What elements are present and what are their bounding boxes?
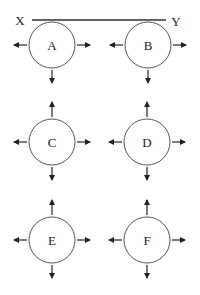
circle-label-c: C (48, 135, 57, 150)
node-c: C (14, 102, 90, 180)
circle-label-e: E (48, 233, 56, 248)
force-diagram: X Y ABCDEF (0, 0, 200, 295)
label-x: X (15, 13, 25, 28)
node-d: D (109, 102, 185, 180)
circle-label-a: A (47, 38, 57, 53)
node-a: A (14, 22, 90, 83)
node-b: B (110, 22, 186, 83)
circle-label-b: B (144, 38, 153, 53)
node-e: E (14, 200, 90, 278)
label-y: Y (171, 14, 181, 29)
circles-group: ABCDEF (14, 22, 186, 278)
node-f: F (109, 200, 185, 278)
circle-label-d: D (142, 135, 151, 150)
circle-label-f: F (143, 233, 150, 248)
